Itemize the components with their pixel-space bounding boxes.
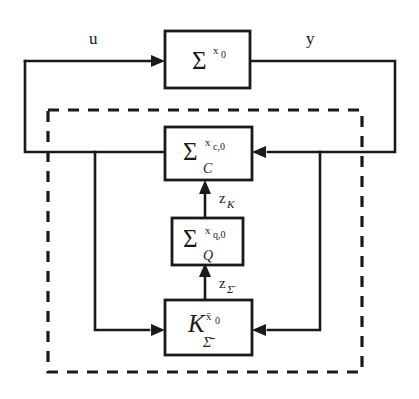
- arrow-into-gain-left: [151, 324, 165, 336]
- diagram-canvas: Σ x 0 Σ C x c,0 Σ Q x q,0 K Σ̄ x̄ 0 u y …: [0, 0, 419, 399]
- plant-block[interactable]: [165, 31, 250, 88]
- block-diagram-svg: Σ x 0 Σ C x c,0 Σ Q x q,0 K Σ̄ x̄ 0 u y …: [0, 0, 419, 399]
- left-branch-to-gain: [95, 152, 149, 330]
- arrow-into-gain-right: [252, 324, 266, 336]
- observer-block-subscript: Q: [203, 248, 213, 263]
- plant-block-superscript-index: 0: [221, 49, 226, 60]
- input-signal-u-label: u: [89, 29, 98, 48]
- observer-block-superscript-index: q,0: [213, 229, 226, 240]
- signal-z-k-subscript: K: [226, 198, 235, 210]
- controller-block-superscript: x: [205, 136, 211, 148]
- outer-left-feedback-path: [25, 61, 165, 152]
- gain-block-superscript-index: 0: [215, 315, 220, 326]
- signal-z-k-label: z: [219, 190, 226, 206]
- output-line-y: [250, 61, 395, 152]
- signal-z-sigma-bar-subscript: Σ̄: [226, 283, 237, 295]
- signal-z-sigma-bar-label: z: [219, 275, 226, 291]
- observer-block-symbol: Σ: [183, 225, 198, 252]
- output-signal-y-label: y: [306, 29, 315, 48]
- gain-block-symbol: K: [187, 310, 206, 337]
- observer-block-superscript: x: [205, 224, 211, 236]
- gain-block-superscript: x̄: [206, 310, 212, 322]
- controller-block-superscript-index: c,0: [213, 141, 225, 152]
- arrow-into-controller-right: [252, 146, 266, 158]
- plant-block-symbol: Σ: [192, 47, 207, 74]
- arrow-into-plant: [151, 55, 165, 67]
- controller-block-symbol: Σ: [183, 138, 198, 165]
- arrow-into-controller-bottom: [199, 180, 211, 194]
- right-branch-to-gain: [268, 152, 320, 330]
- controller-block-subscript: C: [203, 161, 213, 176]
- plant-block-superscript: x: [213, 44, 219, 56]
